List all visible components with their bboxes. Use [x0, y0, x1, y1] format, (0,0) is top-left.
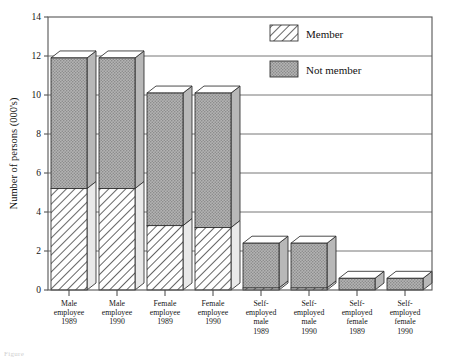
bar-1-notmember-face: [99, 58, 135, 189]
y-tick-label-6: 6: [36, 168, 41, 178]
y-tick-label-12: 12: [32, 51, 42, 61]
bar-2-member-face: [147, 226, 183, 290]
legend: MemberNot member: [270, 25, 362, 77]
legend-swatch-0: [270, 25, 298, 41]
bar-2-notmember-face: [147, 93, 183, 226]
bar-3-member-side: [231, 221, 240, 290]
y-tick-label-8: 8: [36, 129, 41, 139]
bar-6: [339, 271, 384, 290]
x-label-7: Self-employedfemale1990: [390, 299, 421, 336]
bar-7: [387, 271, 432, 290]
bar-5: [291, 236, 336, 290]
bar-0-notmember-side: [87, 51, 96, 189]
bar-3-notmember-side: [231, 86, 240, 228]
x-axis-tick-marks: [69, 290, 405, 296]
bars-group: [51, 51, 432, 290]
y-tick-label-14: 14: [32, 12, 42, 22]
bar-1-member-face: [99, 189, 135, 290]
legend-swatch-1: [270, 61, 298, 77]
y-tick-label-0: 0: [36, 285, 41, 295]
x-label-2: Femaleemployee1989: [150, 299, 181, 326]
bar-0-notmember-face: [51, 58, 87, 189]
bar-5-notmember-side: [327, 236, 336, 288]
bar-3: [195, 86, 240, 290]
x-label-5: Self-employedmale1990: [294, 299, 325, 336]
y-tick-label-4: 4: [36, 207, 41, 217]
x-label-3: Femaleemployee1990: [198, 299, 229, 326]
bar-7-notmember-face: [387, 278, 423, 290]
bar-0-member-face: [51, 189, 87, 290]
bar-0-member-side: [87, 182, 96, 290]
x-label-4: Self-employedmale1989: [246, 299, 277, 336]
x-label-6: Self-employedfemale1989: [342, 299, 373, 336]
bar-4: [243, 236, 288, 290]
bar-4-notmember-side: [279, 236, 288, 288]
bar-6-notmember-face: [339, 278, 375, 290]
bar-1: [99, 51, 144, 290]
bar-4-notmember-face: [243, 243, 279, 288]
y-axis-ticks: 02468101214: [32, 12, 49, 295]
figure-caption: Figure: [4, 350, 24, 358]
x-label-0: Maleemployee1989: [54, 299, 85, 326]
legend-label-0: Member: [306, 28, 344, 40]
bar-chart: 02468101214 Maleemployee1989Maleemployee…: [0, 0, 450, 359]
legend-label-1: Not member: [306, 64, 362, 76]
bar-3-notmember-face: [195, 93, 231, 228]
y-tick-label-10: 10: [32, 90, 42, 100]
bar-2: [147, 86, 192, 290]
y-axis-title: Number of persons (000's): [8, 97, 20, 209]
bar-3-member-face: [195, 228, 231, 290]
bar-2-notmember-side: [183, 86, 192, 226]
x-axis-category-labels: Maleemployee1989Maleemployee1990Femaleem…: [54, 299, 421, 336]
bar-1-member-side: [135, 182, 144, 290]
chart-canvas: 02468101214 Maleemployee1989Maleemployee…: [0, 0, 450, 359]
bar-5-notmember-face: [291, 243, 327, 288]
x-label-1: Maleemployee1990: [102, 299, 133, 326]
bar-2-member-side: [183, 219, 192, 290]
bar-0: [51, 51, 96, 290]
bar-1-notmember-side: [135, 51, 144, 189]
y-tick-label-2: 2: [36, 246, 41, 256]
